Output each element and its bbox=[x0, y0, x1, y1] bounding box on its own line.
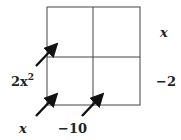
row-label-top: x bbox=[159, 25, 168, 40]
col-label-left: x bbox=[18, 121, 27, 136]
arrow-icon bbox=[36, 46, 55, 66]
arrow-icon bbox=[36, 96, 55, 116]
area-model-diagram: x −2 2x2 x −10 bbox=[0, 0, 181, 140]
left-label-exponent: 2 bbox=[28, 72, 34, 82]
left-label-base: 2x bbox=[11, 74, 28, 89]
row-label-bottom: −2 bbox=[156, 74, 176, 89]
arrow-icon bbox=[82, 96, 101, 116]
left-label: 2x2 bbox=[11, 72, 34, 89]
col-label-right: −10 bbox=[58, 121, 87, 136]
grid bbox=[47, 7, 140, 105]
